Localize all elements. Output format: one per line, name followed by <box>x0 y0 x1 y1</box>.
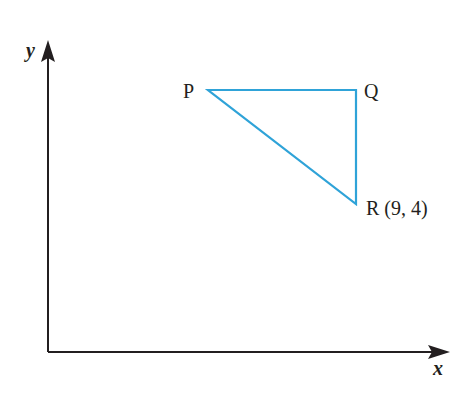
coordinate-diagram: y x P Q R (9, 4) <box>0 0 464 393</box>
y-axis-label: y <box>24 39 35 62</box>
point-r-label: R (9, 4) <box>366 197 428 220</box>
point-q-label: Q <box>364 80 379 102</box>
y-axis <box>41 40 55 352</box>
triangle-pqr <box>208 90 356 204</box>
x-axis <box>48 345 450 359</box>
x-axis-label: x <box>432 357 443 379</box>
point-p-label: P <box>183 80 194 102</box>
